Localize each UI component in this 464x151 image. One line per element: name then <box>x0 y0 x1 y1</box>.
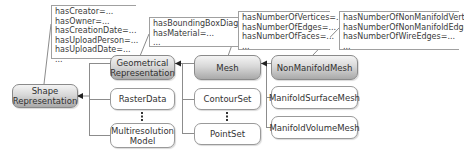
node-label: Shape <box>32 86 59 96</box>
node-manifold-surface-mesh[interactable]: ManifoldSurfaceMesh <box>271 86 358 109</box>
arrowhead-mesh <box>261 61 267 67</box>
note-line: hasMaterial=... <box>153 29 239 39</box>
node-label: RasterData <box>119 94 167 104</box>
note-geometrical-attributes: hasBoundingBoxDiagonal=... hasMaterial=.… <box>149 17 239 47</box>
node-shape-representation[interactable]: Shape Representation <box>12 84 78 108</box>
note-line: hasNumberOfNonManifoldVertices=... <box>343 13 459 23</box>
node-multiresolution-model[interactable]: Multiresolution Model <box>110 123 175 148</box>
node-raster-data[interactable]: RasterData <box>110 88 175 110</box>
node-manifold-volume-mesh[interactable]: ManifoldVolumeMesh <box>271 116 358 139</box>
node-geometrical-representation[interactable]: Geometrical Representation <box>110 55 175 80</box>
node-mesh[interactable]: Mesh <box>194 55 261 80</box>
node-label: ManifoldSurfaceMesh <box>269 93 360 103</box>
note-nonmanifold-attributes: hasNumberOfNonManifoldVertices=... hasNu… <box>339 11 459 50</box>
node-label: Model <box>130 136 156 146</box>
note-shape-attributes: hasCreator=... hasOwner=... hasCreationD… <box>51 5 136 59</box>
note-line: hasNumberOfNonManifoldEdges=... <box>343 23 459 33</box>
note-line: hasNumberOfFaces=... <box>242 32 330 42</box>
note-line: hasNumberOfEdges=... <box>242 23 330 33</box>
note-line: hasOwner=... <box>55 17 136 27</box>
node-label: ContourSet <box>204 94 252 104</box>
note-line: hasUploadDate=... <box>55 45 136 55</box>
arrowhead-geometrical <box>175 61 181 67</box>
note-line: hasCreationDate=... <box>55 26 136 36</box>
note-mesh-attributes: hasNumberOfVertices=... hasNumberOfEdges… <box>238 11 330 50</box>
node-label: Representation <box>13 96 78 106</box>
node-label: ManifoldVolumeMesh <box>269 123 359 133</box>
node-contour-set[interactable]: ContourSet <box>194 88 261 110</box>
node-label: Mesh <box>216 63 238 73</box>
node-label: NonManifoldMesh <box>277 63 353 73</box>
node-label: PointSet <box>210 129 245 139</box>
note-line: hasNumberOfVertices=... <box>242 13 330 23</box>
note-line: hasNumberOfWireEdges=... <box>343 32 459 42</box>
node-label: Multiresolution <box>111 126 174 136</box>
node-label: Geometrical <box>117 58 169 68</box>
node-point-set[interactable]: PointSet <box>194 123 261 145</box>
node-label: Representation <box>110 68 175 78</box>
note-line: ... <box>242 42 330 52</box>
note-line: ... <box>153 38 239 48</box>
note-line: hasCreator=... <box>55 7 136 17</box>
note-line: hasBoundingBoxDiagonal=... <box>153 19 239 29</box>
note-line: ... <box>343 42 459 52</box>
node-non-manifold-mesh[interactable]: NonManifoldMesh <box>271 55 358 80</box>
note-line: hasUploadPerson=... <box>55 36 136 46</box>
